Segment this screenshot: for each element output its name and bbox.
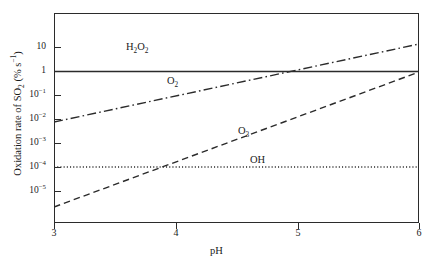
y-tick-label: 10−5	[0, 186, 46, 196]
y-axis-title: Oxidation rate of SO2 (% s−1)	[12, 4, 23, 224]
x-tick-label: 4	[164, 228, 188, 238]
y-tick-label: 10	[0, 42, 46, 52]
x-tick-label: 6	[407, 228, 431, 238]
y-tick-mark	[54, 119, 61, 120]
y-tick-mark	[54, 71, 61, 72]
series-label-o2: O2	[167, 76, 178, 87]
y-tick-label: 10−1	[0, 90, 46, 100]
y-tick-mark	[54, 47, 61, 48]
y-tick-label: 10−2	[0, 114, 46, 124]
y-tick-label: 1	[0, 66, 46, 76]
y-tick-label: 10−4	[0, 162, 46, 172]
y-tick-label: 10−3	[0, 138, 46, 148]
y-tick-mark	[54, 167, 61, 168]
data-layer	[54, 13, 419, 223]
series-line-o2	[54, 44, 419, 122]
y-tick-mark	[54, 191, 61, 192]
series-label-h2o2: H2O2	[126, 42, 149, 53]
y-tick-mark	[54, 143, 61, 144]
y-tick-mark	[54, 95, 61, 96]
x-axis-title: pH	[0, 245, 433, 256]
series-label-o3: O3	[238, 126, 249, 137]
x-tick-label: 3	[42, 228, 66, 238]
series-line-o3	[54, 72, 419, 207]
figure-canvas: 10 1 10−1 10−2 10−3 10−4 10−5 3 4 5 6 pH…	[0, 0, 433, 263]
x-tick-label: 5	[286, 228, 310, 238]
series-label-oh: OH	[250, 155, 265, 166]
